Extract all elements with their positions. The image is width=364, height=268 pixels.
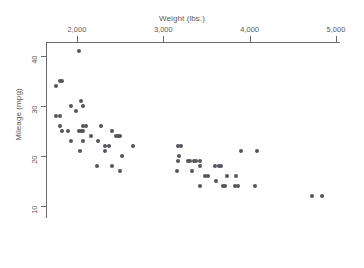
data-point <box>236 184 240 188</box>
data-point <box>190 169 194 173</box>
data-point <box>234 174 238 178</box>
data-point <box>198 184 202 188</box>
data-point <box>89 134 93 138</box>
data-point <box>74 109 78 113</box>
data-point <box>176 159 180 163</box>
data-point <box>69 104 73 108</box>
data-point <box>177 154 181 158</box>
data-point <box>54 84 58 88</box>
data-point <box>118 169 122 173</box>
data-point <box>320 194 324 198</box>
data-point <box>239 149 243 153</box>
data-point <box>69 139 73 143</box>
data-point <box>225 174 229 178</box>
data-point <box>81 139 85 143</box>
data-point <box>78 149 82 153</box>
data-point <box>110 164 114 168</box>
data-point <box>84 124 88 128</box>
data-point <box>96 139 100 143</box>
data-point <box>253 184 257 188</box>
data-point <box>81 129 85 133</box>
data-point <box>206 174 210 178</box>
data-point <box>131 144 135 148</box>
data-point <box>58 114 62 118</box>
data-point <box>66 129 70 133</box>
data-point <box>255 149 259 153</box>
data-point <box>95 164 99 168</box>
data-point <box>107 144 111 148</box>
plot-area <box>0 0 364 268</box>
data-point <box>58 124 62 128</box>
data-point <box>214 179 218 183</box>
data-point <box>310 194 314 198</box>
data-point <box>198 164 202 168</box>
data-point <box>77 49 81 53</box>
data-point <box>179 144 183 148</box>
data-point <box>118 134 122 138</box>
data-point <box>198 159 202 163</box>
data-point <box>81 104 85 108</box>
data-point <box>103 149 107 153</box>
data-point <box>223 184 227 188</box>
data-point <box>219 164 223 168</box>
data-point <box>60 79 64 83</box>
data-point <box>79 99 83 103</box>
data-point <box>60 129 64 133</box>
data-point <box>110 129 114 133</box>
data-point <box>99 124 103 128</box>
data-point <box>120 154 124 158</box>
data-point <box>175 169 179 173</box>
scatter-plot-figure: Weight (lbs.) Mileage (mpg) 2,0003,0004,… <box>0 0 364 268</box>
